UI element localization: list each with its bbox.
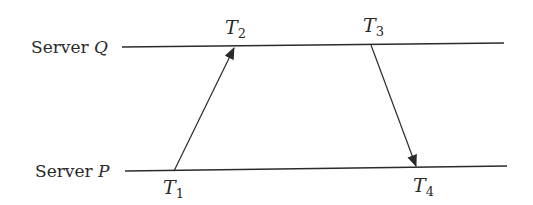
server-p-timeline	[125, 166, 507, 171]
server-p-label: Server P	[35, 161, 110, 181]
message-arrow-p-to-q	[174, 48, 234, 171]
server-p-row: Server P	[35, 161, 507, 181]
server-q-label: Server Q	[31, 37, 108, 57]
timestamp-t1-label: T1	[163, 176, 184, 201]
message-arrow-q-to-p	[371, 45, 416, 166]
time-sync-diagram: Server Q Server P T2 T3 T1 T4	[0, 0, 533, 205]
server-q-timeline	[122, 43, 504, 47]
timestamp-t3-label: T3	[363, 14, 384, 39]
timestamp-t2-label: T2	[225, 16, 246, 41]
server-q-row: Server Q	[31, 37, 504, 57]
timestamp-t4-label: T4	[413, 174, 434, 199]
